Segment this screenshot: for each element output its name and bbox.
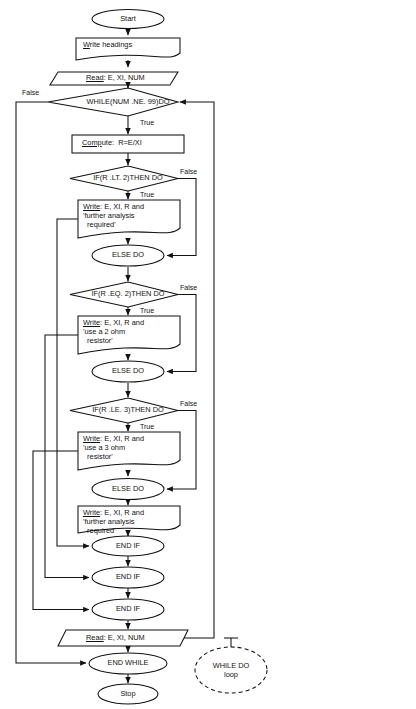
label-write-1: Write: E, XI, R and 'further analysis re…: [83, 203, 144, 229]
label-if1-false: False: [180, 168, 197, 175]
label-while-false: False: [22, 89, 39, 96]
label-if1-true: True: [140, 191, 154, 198]
label-while-true: True: [140, 119, 154, 126]
label-start: Start: [92, 15, 164, 24]
label-if2-true: True: [140, 307, 154, 314]
label-write-2: Write: E, XI, R and 'use a 2 ohm resisto…: [83, 319, 144, 345]
edge-write1-to-endif1: [57, 219, 89, 546]
edge-if1-false: [167, 179, 196, 256]
label-write-headings: Write headings: [83, 41, 132, 50]
label-if1-decision: IF(R .LT. 2)THEN DO: [68, 174, 188, 183]
label-if2-decision: IF(R .EQ. 2)THEN DO: [68, 290, 188, 299]
label-read-1: Read: E, XI, NUM: [86, 74, 145, 83]
label-compute: Compute: R=E/XI: [82, 139, 142, 148]
label-while-decision: WHILE(NUM .NE. 99)DO: [62, 98, 194, 107]
edge-write3-to-endif3: [33, 451, 89, 610]
label-end-if-1: END IF: [92, 542, 164, 551]
label-write-3: Write: E, XI, R and 'use a 3 ohm resisto…: [83, 435, 144, 461]
label-if2-false: False: [180, 284, 197, 291]
label-else-do-3: ELSE DO: [92, 485, 164, 494]
label-if3-true: True: [140, 423, 154, 430]
edge-if2-false: [167, 295, 196, 372]
label-else-do-2: ELSE DO: [92, 367, 164, 376]
label-read-2: Read: E, XI, NUM: [86, 634, 145, 643]
label-end-if-3: END IF: [92, 605, 164, 614]
edge-if3-false: [167, 411, 196, 490]
label-end-while: END WHILE: [89, 659, 167, 668]
label-end-if-2: END IF: [92, 573, 164, 582]
label-if3-decision: IF(R .LE. 3)THEN DO: [68, 406, 188, 415]
label-write-4: Write: E, XI, R and 'further analysis re…: [83, 509, 144, 535]
label-stop: Stop: [98, 690, 158, 699]
edge-while-false: [16, 102, 86, 663]
comments-column: Comments All headings to be printed once…: [205, 0, 416, 709]
label-if3-false: False: [180, 400, 197, 407]
label-else-do-1: ELSE DO: [92, 251, 164, 260]
